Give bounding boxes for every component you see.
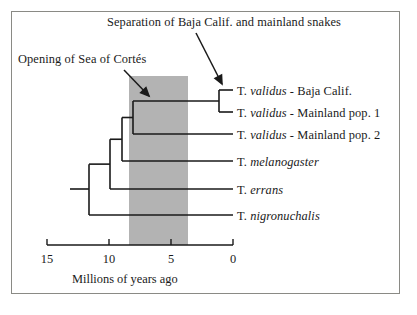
taxon-label-errans: T. errans — [237, 183, 283, 198]
tree-drawing-layer — [0, 0, 417, 315]
taxon-label-validus-baja: T. validus - Baja Calif. — [237, 84, 352, 99]
time-axis — [47, 239, 233, 245]
tree-branches — [70, 90, 233, 215]
axis-tick-label-5: 5 — [156, 252, 186, 267]
axis-tick-label-0: 0 — [218, 252, 248, 267]
taxon-label-melanogaster: T. melanogaster — [237, 155, 319, 170]
taxon-label-validus-mainland-1: T. validus - Mainland pop. 1 — [237, 106, 380, 121]
axis-title: Millions of years ago — [72, 272, 178, 287]
annotation-sea-of-cortes: Opening of Sea of Cortés — [18, 52, 146, 67]
axis-tick-label-15: 15 — [32, 252, 62, 267]
axis-tick-label-10: 10 — [94, 252, 124, 267]
annotation-separation-event: Separation of Baja Calif. and mainland s… — [107, 15, 341, 30]
phylogenetic-tree-figure: Separation of Baja Calif. and mainland s… — [0, 0, 417, 315]
taxon-label-nigronuchalis: T. nigronuchalis — [237, 209, 320, 224]
taxon-label-validus-mainland-2: T. validus - Mainland pop. 2 — [237, 128, 380, 143]
